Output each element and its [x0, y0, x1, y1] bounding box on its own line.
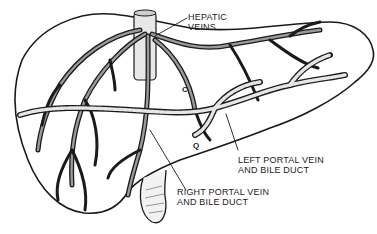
- label-right-portal-line2: AND BILE DUCT: [177, 197, 269, 207]
- label-hepatic-veins: HEPATIC VEINS: [188, 12, 227, 32]
- marker-c: C: [182, 85, 188, 94]
- label-right-portal-vein: RIGHT PORTAL VEIN AND BILE DUCT: [177, 187, 269, 207]
- label-left-portal-vein: LEFT PORTAL VEIN AND BILE DUCT: [238, 155, 324, 175]
- portal-vein: [20, 55, 345, 135]
- label-hepatic-veins-line2: VEINS: [188, 22, 227, 32]
- marker-q: Q: [193, 141, 199, 150]
- liver-diagram: HEPATIC VEINS LEFT PORTAL VEIN AND BILE …: [0, 0, 377, 234]
- vena-cava: [134, 12, 156, 80]
- label-hepatic-veins-line1: HEPATIC: [188, 12, 227, 22]
- label-left-portal-line2: AND BILE DUCT: [238, 165, 324, 175]
- label-left-portal-line1: LEFT PORTAL VEIN: [238, 155, 324, 165]
- label-right-portal-line1: RIGHT PORTAL VEIN: [177, 187, 269, 197]
